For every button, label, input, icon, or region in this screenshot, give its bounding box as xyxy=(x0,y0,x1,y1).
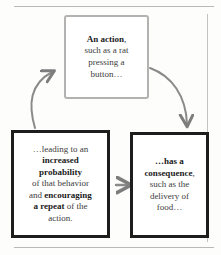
diagram-page: An action, such as a rat pressing a butt… xyxy=(0,0,221,255)
node-probability-emphasis-4: a repeat xyxy=(33,201,64,211)
node-probability-line-1: …leading to an xyxy=(29,144,92,156)
node-action-line-4: button… xyxy=(84,69,128,81)
node-probability-line-6-post: of the xyxy=(65,201,88,211)
node-consequence-text: …has a consequence, such as the delivery… xyxy=(140,156,198,214)
node-action-line-1-tail: , xyxy=(124,34,126,44)
node-action-line-2: such as a rat xyxy=(84,45,128,57)
node-action-line-3: pressing a xyxy=(84,57,128,69)
node-probability-emphasis-1: increased xyxy=(42,155,78,165)
node-probability-line-5-pre: and xyxy=(29,190,44,200)
node-probability-emphasis-3: encouraging xyxy=(44,190,92,200)
node-action-line-1: An action, xyxy=(84,34,128,46)
node-probability-line-3: probability xyxy=(29,167,92,179)
node-probability-line-2: increased xyxy=(29,155,92,167)
node-action: An action, such as a rat pressing a butt… xyxy=(64,15,149,99)
node-consequence-line-4: delivery of xyxy=(144,191,194,203)
node-consequence: …has a consequence, such as the delivery… xyxy=(130,132,209,238)
arrow-probability-to-action xyxy=(31,72,52,128)
node-action-emphasis: An action xyxy=(87,34,124,44)
node-probability: …leading to an increased probability of … xyxy=(11,130,110,238)
node-consequence-line-1: …has a xyxy=(144,156,194,168)
node-probability-line-7: action. xyxy=(29,213,92,225)
node-probability-line-4: of that behavior xyxy=(29,178,92,190)
node-consequence-emphasis-1: …has a xyxy=(155,156,184,166)
node-probability-line-5: and encouraging xyxy=(29,190,92,202)
node-probability-emphasis-2: probability xyxy=(39,167,82,177)
node-consequence-line-2: consequence, xyxy=(144,168,194,180)
node-probability-line-6: a repeat of the xyxy=(29,201,92,213)
node-consequence-line-2-tail: , xyxy=(192,168,194,178)
node-probability-text: …leading to an increased probability of … xyxy=(25,144,96,225)
node-consequence-line-3: such as the xyxy=(144,179,194,191)
node-consequence-emphasis-2: consequence xyxy=(144,168,192,178)
arrow-action-to-consequence xyxy=(150,68,187,124)
node-action-text: An action, such as a rat pressing a butt… xyxy=(80,34,132,80)
node-consequence-line-5: food… xyxy=(144,202,194,214)
